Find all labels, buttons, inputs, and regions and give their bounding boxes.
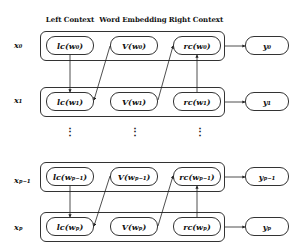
arrow-vp-rcp1 (158, 176, 173, 226)
arrow-vp1-lcp (94, 176, 110, 226)
arrow-v0-lc1 (94, 46, 110, 100)
arrows-layer (0, 0, 305, 252)
arrow-v1-rc0 (158, 46, 173, 100)
